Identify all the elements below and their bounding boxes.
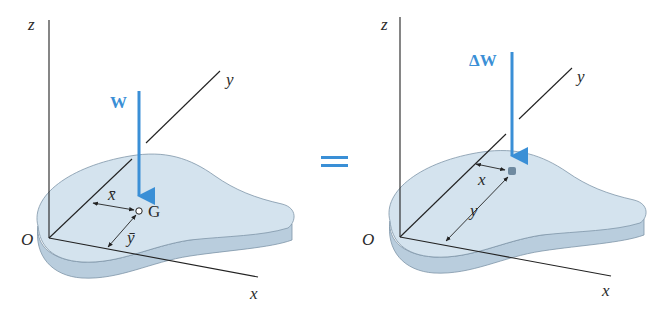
z-axis-label: z (27, 15, 35, 34)
x-axis-label: x (601, 281, 610, 300)
center-of-gravity-diagram: z y x O W G x̄ ȳ z y x O (0, 0, 662, 318)
y-bar-label: ȳ (125, 228, 135, 247)
y-axis-label: y (575, 67, 585, 86)
x-label: x (477, 170, 486, 189)
x-bar-label: x̄ (107, 185, 116, 204)
point-g-label: G (148, 202, 160, 221)
y-axis-label: y (224, 70, 234, 89)
left-figure: z y x O W G x̄ ȳ (21, 15, 294, 303)
center-of-gravity-point (136, 208, 142, 214)
z-axis-label: z (380, 15, 388, 34)
element-point (508, 167, 516, 175)
x-axis-label: x (249, 284, 258, 303)
equals-sign (321, 156, 348, 167)
y-axis-upper (519, 68, 572, 119)
weight-label: W (110, 93, 127, 112)
origin-label: O (21, 230, 33, 249)
y-axis-upper (146, 71, 220, 143)
right-figure: z y x O ΔW x y (362, 15, 646, 300)
origin-label: O (362, 230, 374, 249)
y-label: y (468, 201, 478, 220)
delta-weight-label: ΔW (469, 51, 497, 70)
